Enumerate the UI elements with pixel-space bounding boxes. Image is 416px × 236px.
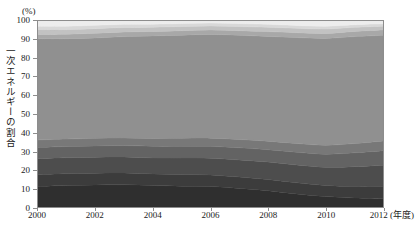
x-tick-label: 2002 [86,210,104,221]
y-tick-mark [33,133,37,134]
y-tick-mark [33,170,37,171]
y-tick-label: 20 [0,165,34,175]
y-tick-label: 90 [0,34,34,44]
area-band-series-6 [38,34,383,145]
y-tick-value: 50 [0,109,34,119]
y-tick-value: 100 [0,15,34,25]
y-tick-mark [33,189,37,190]
y-tick-value: 40 [0,128,34,138]
y-tick-value: 90 [0,34,34,44]
y-tick-value: 80 [0,53,34,63]
y-tick-label: 70 [0,71,34,81]
x-tick-label: 2010 [317,210,335,221]
y-tick-label: 100 [0,15,34,25]
x-axis-ticks: 2000200220042006200820102012 (年度) [0,210,416,226]
y-tick-mark [33,95,37,96]
y-tick-value: 70 [0,71,34,81]
x-tick-label: 2004 [144,210,162,221]
x-tick-mark [95,208,96,211]
y-tick-label: 80 [0,53,34,63]
y-tick-value: 10 [0,184,34,194]
y-tick-label: 50 [0,109,34,119]
y-tick-mark [33,76,37,77]
y-tick-value: 60 [0,90,34,100]
y-axis-ticks: 0102030405060708090100 [0,0,34,236]
stacked-area-paths [38,21,383,207]
y-tick-label: 30 [0,147,34,157]
y-tick-mark [33,152,37,153]
x-tick-mark [211,208,212,211]
x-tick-label: 2008 [259,210,277,221]
y-tick-label: 10 [0,184,34,194]
y-tick-label: 40 [0,128,34,138]
y-tick-label: 60 [0,90,34,100]
x-tick-mark [384,208,385,211]
y-tick-value: 20 [0,165,34,175]
x-tick-mark [37,208,38,211]
y-tick-mark [33,114,37,115]
x-tick-mark [153,208,154,211]
x-tick-label: 2006 [202,210,220,221]
x-tick-label: 2012 (年度) [370,210,414,221]
x-tick-label: 2000 [28,210,46,221]
x-tick-mark [268,208,269,211]
y-tick-mark [33,58,37,59]
y-tick-mark [33,20,37,21]
x-tick-mark [326,208,327,211]
stacked-area-chart-figure: (%) 一次エネルギーの割合 0102030405060708090100 20… [0,0,416,236]
y-tick-value: 30 [0,147,34,157]
plot-area [37,20,384,208]
y-tick-mark [33,39,37,40]
